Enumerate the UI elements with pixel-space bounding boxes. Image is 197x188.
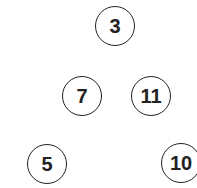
- node-10: 10: [161, 143, 197, 183]
- node-5: 5: [27, 144, 67, 184]
- node-3: 3: [95, 6, 135, 46]
- node-7: 7: [62, 76, 102, 116]
- node-11: 11: [131, 76, 171, 116]
